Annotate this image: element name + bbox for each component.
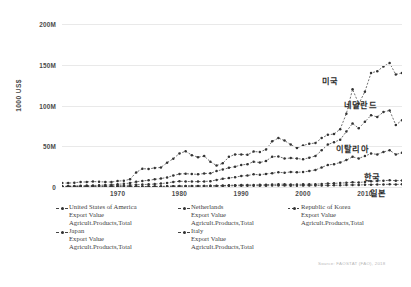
data-point <box>395 124 398 127</box>
legend-item-label: Italy <box>191 227 254 235</box>
data-point <box>401 179 402 182</box>
data-point <box>104 181 107 184</box>
data-point <box>129 182 132 185</box>
data-point <box>364 184 367 187</box>
data-point <box>289 157 292 160</box>
data-point <box>277 171 280 174</box>
data-point <box>351 156 354 159</box>
legend-item-category: Agricult.Products,Total <box>191 219 254 227</box>
data-point <box>98 181 101 184</box>
data-point <box>351 184 354 187</box>
legend-item-sublabel: Export Value <box>69 211 137 219</box>
legend-item-united-states-of-america[interactable]: United States of America Export Value Ag… <box>56 203 178 227</box>
annotation-netherlands: 네덜란드 <box>344 98 377 110</box>
data-point <box>259 151 262 154</box>
data-point <box>252 160 255 163</box>
data-point <box>364 90 367 93</box>
legend-marker-icon <box>178 229 191 236</box>
data-point <box>395 73 398 76</box>
x-axis-tick-label: 2000 <box>295 190 310 197</box>
y-axis-tick-label: 0 <box>52 184 56 191</box>
data-point <box>351 122 354 125</box>
data-point <box>401 152 402 155</box>
chart-container: 1000 US$ 200M150M100M50M0 19701980199020… <box>0 0 411 287</box>
legend: United States of America Export Value Ag… <box>56 203 406 252</box>
data-point <box>240 164 243 167</box>
data-point <box>246 154 249 157</box>
data-point <box>277 155 280 158</box>
annotation-japan: 일본 <box>370 186 386 198</box>
data-point <box>252 150 255 153</box>
data-point <box>246 163 249 166</box>
data-point <box>234 153 237 156</box>
data-point <box>327 164 330 167</box>
data-point <box>203 155 206 158</box>
data-point <box>153 167 156 170</box>
data-point <box>184 150 187 153</box>
data-point <box>376 70 379 73</box>
legend-item-japan[interactable]: Japan Export Value Agricult.Products,Tot… <box>56 227 178 251</box>
legend-spacer <box>288 227 406 251</box>
data-point <box>153 178 156 181</box>
data-point <box>289 171 292 174</box>
data-point <box>370 152 373 155</box>
legend-item-category: Agricult.Products,Total <box>191 243 254 251</box>
data-point <box>314 155 317 158</box>
legend-item-sublabel: Export Value <box>69 235 132 243</box>
data-point <box>184 180 187 183</box>
data-point <box>345 182 348 185</box>
legend-marker-icon <box>288 205 301 212</box>
data-point <box>388 179 391 182</box>
data-point <box>191 180 194 183</box>
data-point <box>209 180 212 183</box>
gridline <box>62 24 402 25</box>
gridline <box>62 187 402 188</box>
data-point <box>215 179 218 182</box>
data-point <box>147 168 150 171</box>
legend-item-italy[interactable]: Italy Export Value Agricult.Products,Tot… <box>178 227 288 251</box>
data-point <box>240 153 243 156</box>
data-point <box>382 151 385 154</box>
data-point <box>160 166 163 169</box>
data-point <box>191 154 194 157</box>
legend-item-republic-of-korea[interactable]: Republic of Korea Export Value Agricult.… <box>288 203 406 227</box>
legend-row-1: United States of America Export Value Ag… <box>56 203 406 227</box>
data-point <box>308 143 311 146</box>
data-point <box>320 149 323 152</box>
data-point <box>147 179 150 182</box>
data-point <box>265 173 268 176</box>
legend-item-category: Agricult.Products,Total <box>301 219 364 227</box>
data-point <box>160 182 163 185</box>
data-point <box>395 153 398 156</box>
data-point <box>215 164 218 167</box>
data-point <box>271 172 274 175</box>
data-point <box>203 180 206 183</box>
data-point <box>178 180 181 183</box>
data-point <box>85 181 88 184</box>
data-point <box>308 156 311 159</box>
legend-item-label: United States of America <box>69 203 137 211</box>
data-point <box>62 182 63 185</box>
data-point <box>215 170 218 173</box>
legend-item-netherlands[interactable]: Netherlands Export Value Agricult.Produc… <box>178 203 288 227</box>
data-point <box>240 175 243 178</box>
data-point <box>203 172 206 175</box>
data-point <box>234 176 237 179</box>
data-point <box>92 180 95 183</box>
annotation-italy: 이탈리아 <box>336 142 369 154</box>
data-point <box>197 173 200 176</box>
data-point <box>296 157 299 160</box>
legend-row-2: Japan Export Value Agricult.Products,Tot… <box>56 227 406 251</box>
data-point <box>147 183 150 186</box>
data-point <box>376 153 379 156</box>
x-axis-tick-label: 1980 <box>172 190 187 197</box>
data-point <box>370 114 373 117</box>
series-italy <box>62 149 402 187</box>
data-point <box>178 173 181 176</box>
data-point <box>166 182 169 185</box>
data-point <box>382 111 385 114</box>
data-point <box>327 134 330 137</box>
data-point <box>351 88 354 91</box>
data-point <box>339 161 342 164</box>
data-point <box>79 181 82 184</box>
